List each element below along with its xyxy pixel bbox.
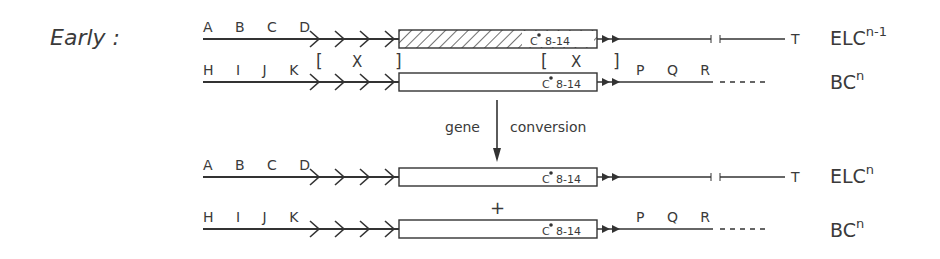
svg-text:]: ]: [395, 51, 402, 71]
svg-text:[: [: [316, 51, 323, 71]
svg-text:]: ]: [613, 51, 620, 71]
svg-text:8-14: 8-14: [545, 35, 570, 48]
plus-sign: +: [490, 197, 505, 218]
svg-text:P Q R: P Q R: [636, 209, 719, 225]
svg-text:gene: gene: [445, 119, 480, 135]
svg-text:C: C: [542, 78, 550, 91]
svg-text:BCn: BCn: [830, 68, 864, 93]
svg-text:conversion: conversion: [510, 119, 586, 135]
svg-text:H I J K: H I J K: [203, 209, 307, 225]
svg-text:8-14: 8-14: [556, 78, 581, 91]
row-bc-n-top: C 8-14 P Q R H I J K BCn: [203, 62, 864, 93]
gene-label: C: [530, 35, 538, 48]
svg-text:P Q R: P Q R: [636, 62, 719, 78]
svg-text:T: T: [790, 169, 800, 185]
svg-text:T: T: [790, 31, 800, 47]
svg-text:X: X: [352, 53, 362, 71]
svg-text:X: X: [571, 53, 581, 71]
svg-text:H I J K: H I J K: [203, 62, 307, 78]
gene-conversion-arrow: gene conversion: [445, 100, 586, 162]
row-elc-n: C 8-14 T ELCn A B C D: [203, 157, 874, 187]
svg-text:[: [: [541, 51, 548, 71]
svg-text:A B C D: A B C D: [203, 157, 319, 173]
svg-text:BCn: BCn: [830, 216, 864, 241]
left-letters: A B C D: [203, 19, 319, 35]
row-name: ELCn-1: [830, 24, 887, 49]
svg-text:8-14: 8-14: [556, 225, 581, 238]
svg-text:ELCn: ELCn: [830, 162, 874, 187]
crossover-brackets: [ X ] [ X ]: [316, 51, 620, 71]
svg-text:C: C: [542, 225, 550, 238]
row-elc-n-1: C 8-14 T ELCn-1 A B C D: [203, 19, 887, 49]
row-bc-n-bottom: C 8-14 P Q R H I J K BCn: [203, 209, 864, 241]
svg-text:C: C: [542, 173, 550, 186]
gene-conversion-diagram: Early : C 8-14 T ELCn-1 A B C D [ X ] [ …: [0, 0, 940, 259]
title: Early :: [50, 25, 120, 50]
svg-text:8-14: 8-14: [556, 173, 581, 186]
